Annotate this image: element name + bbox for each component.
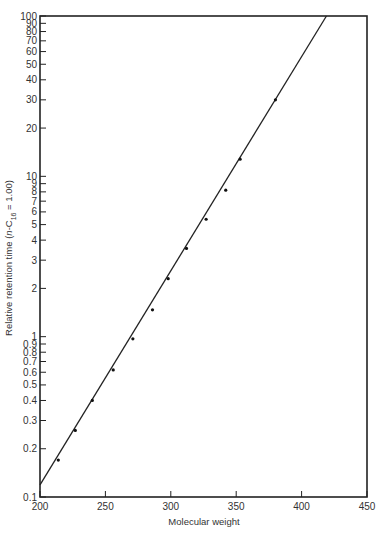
y-tick-label: 0.5 xyxy=(23,379,37,390)
y-tick-label: 0.2 xyxy=(23,443,37,454)
data-point xyxy=(274,98,277,101)
data-point xyxy=(131,337,134,340)
data-point xyxy=(74,429,77,432)
y-tick-label: 6 xyxy=(31,206,37,217)
data-points xyxy=(57,98,277,461)
y-tick-label: 10 xyxy=(26,171,38,182)
y-tick-label: 3 xyxy=(31,255,37,266)
y-tick-label: 40 xyxy=(26,74,38,85)
x-tick-label: 350 xyxy=(228,501,245,512)
x-tick-label: 450 xyxy=(359,501,376,512)
data-point xyxy=(91,399,94,402)
x-tick-label: 250 xyxy=(97,501,114,512)
data-point xyxy=(151,308,154,311)
y-tick-label: 5 xyxy=(31,219,37,230)
plot-frame xyxy=(40,16,367,497)
data-point xyxy=(239,158,242,161)
y-tick-label: 0.6 xyxy=(23,367,37,378)
x-axis-ticks: 200250300350400450 xyxy=(32,491,376,512)
data-point xyxy=(224,189,227,192)
data-point xyxy=(112,368,115,371)
y-axis-ticks: 0.10.20.30.40.50.60.70.80.91234567891020… xyxy=(20,11,46,503)
data-point xyxy=(57,458,60,461)
data-point xyxy=(205,218,208,221)
y-tick-label: 0.3 xyxy=(23,415,37,426)
y-tick-label: 2 xyxy=(31,283,37,294)
y-tick-label: 30 xyxy=(26,94,38,105)
y-tick-label: 1 xyxy=(31,331,37,342)
y-tick-label: 50 xyxy=(26,59,38,70)
x-tick-label: 200 xyxy=(32,501,49,512)
y-tick-label: 60 xyxy=(26,46,38,57)
retention-chart: 0.10.20.30.40.50.60.70.80.91234567891020… xyxy=(0,0,380,533)
fit-line xyxy=(40,16,326,485)
data-point xyxy=(167,277,170,280)
y-tick-label: 20 xyxy=(26,123,38,134)
x-axis-title: Molecular weight xyxy=(168,516,240,527)
y-tick-label: 4 xyxy=(31,235,37,246)
data-point xyxy=(185,247,188,250)
x-tick-label: 400 xyxy=(293,501,310,512)
y-axis-title: Relative retention time (n-C16 = 1.00) xyxy=(3,180,17,336)
y-tick-label: 0.4 xyxy=(23,395,37,406)
x-tick-label: 300 xyxy=(162,501,179,512)
y-tick-label: 100 xyxy=(20,11,37,22)
